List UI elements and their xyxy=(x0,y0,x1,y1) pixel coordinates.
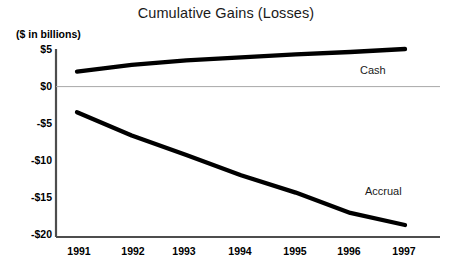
x-tick-label-1995: 1995 xyxy=(283,245,306,257)
series-line-cash xyxy=(77,49,405,72)
series-label-accrual: Accrual xyxy=(365,185,402,197)
x-tick-label-1993: 1993 xyxy=(172,245,195,257)
x-tick-label-1992: 1992 xyxy=(121,245,144,257)
x-tick-label-1994: 1994 xyxy=(228,245,251,257)
x-tick-label-1991: 1991 xyxy=(67,245,90,257)
chart-container: Cumulative Gains (Losses) ($ in billions… xyxy=(0,0,452,271)
chart-plot-area xyxy=(0,0,452,271)
series-line-accrual xyxy=(77,112,405,225)
x-tick-label-1996: 1996 xyxy=(337,245,360,257)
x-tick-label-1997: 1997 xyxy=(392,245,415,257)
series-label-cash: Cash xyxy=(360,64,386,76)
